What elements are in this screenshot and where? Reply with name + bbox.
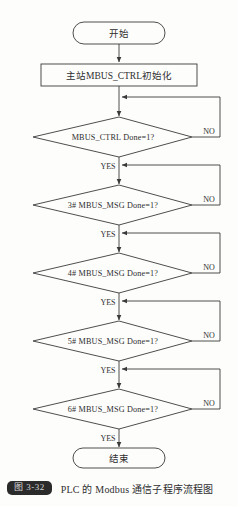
decision-2-label: 3# MBUS_MSG Done=1? (68, 201, 158, 210)
decision-4-label: 5# MBUS_MSG Done=1? (68, 337, 158, 346)
node-decision-2: 3# MBUS_MSG Done=1? (33, 185, 192, 225)
node-decision-1: MBUS_CTRL Done=1? (33, 117, 192, 157)
node-decision-3: 4# MBUS_MSG Done=1? (33, 253, 192, 293)
end-label: 结束 (109, 453, 129, 464)
process-label: 主站MBUS_CTRL初始化 (66, 70, 172, 81)
flowchart-diagram: 开始 主站MBUS_CTRL初始化 MBUS_CTRL Done=1? NO Y… (0, 0, 238, 470)
decision-5-label: 6# MBUS_MSG Done=1? (68, 405, 158, 414)
node-process-init: 主站MBUS_CTRL初始化 (41, 64, 197, 86)
decision-5-yes-label: YES (100, 434, 115, 443)
decision-1-yes-label: YES (100, 162, 115, 171)
figure-number-badge: 图 3-32 (7, 481, 52, 495)
start-label: 开始 (109, 28, 129, 39)
figure-caption-text: PLC 的 Modbus 通信子程序流程图 (61, 481, 214, 496)
decision-4-no-label: NO (203, 331, 215, 340)
decision-3-label: 4# MBUS_MSG Done=1? (68, 269, 158, 278)
node-end: 结束 (73, 448, 165, 468)
figure-caption: 图 3-32 PLC 的 Modbus 通信子程序流程图 (0, 470, 238, 506)
decision-3-yes-label: YES (100, 298, 115, 307)
decision-3-no-label: NO (203, 263, 215, 272)
node-start: 开始 (73, 22, 165, 44)
decision-4-yes-label: YES (100, 366, 115, 375)
decision-1-no-label: NO (203, 127, 215, 136)
node-decision-4: 5# MBUS_MSG Done=1? (33, 321, 192, 361)
decision-2-yes-label: YES (100, 230, 115, 239)
node-decision-5: 6# MBUS_MSG Done=1? (33, 389, 192, 429)
decision-1-label: MBUS_CTRL Done=1? (72, 133, 155, 142)
decision-5-no-label: NO (203, 399, 215, 408)
decision-2-no-label: NO (203, 195, 215, 204)
